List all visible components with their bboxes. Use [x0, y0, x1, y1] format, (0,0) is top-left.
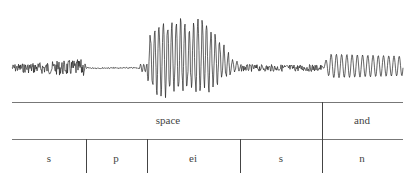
phone-label-n: n	[359, 152, 365, 164]
phone-boundary-s-p	[86, 139, 87, 173]
phone-label-s2: s	[279, 152, 283, 164]
phone-label-s: s	[47, 152, 51, 164]
word-tier-top-line	[12, 102, 403, 103]
word-label-space: space	[156, 114, 180, 126]
phone-label-p: p	[113, 152, 119, 164]
phone-boundary-ei-s	[240, 139, 241, 173]
word-boundary	[322, 102, 323, 173]
phone-boundary-p-ei	[147, 139, 148, 173]
word-label-and: and	[354, 114, 370, 126]
phone-tier-top-line	[12, 139, 403, 140]
speech-waveform	[0, 0, 410, 102]
phone-label-ei: ei	[189, 152, 197, 164]
